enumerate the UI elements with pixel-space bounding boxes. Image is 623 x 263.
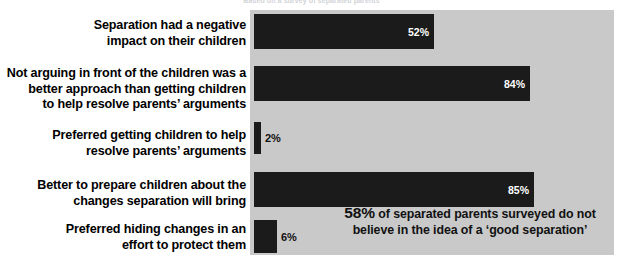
- bar-2: 2%: [254, 122, 261, 154]
- bar-4: 6%: [254, 220, 277, 253]
- category-label-4: Preferred hiding changes in an effort to…: [0, 222, 246, 253]
- category-label-0: Separation had a negative impact on thei…: [0, 18, 246, 49]
- bar-0: 52%: [254, 14, 434, 49]
- category-label-3-line-1: changes separation will bring: [0, 194, 246, 210]
- bar-value-3: 85%: [508, 184, 529, 196]
- callout-line-2: believe in the idea of a ‘good separatio…: [353, 223, 588, 237]
- bar-value-0: 52%: [408, 26, 429, 38]
- category-label-column: Separation had a negative impact on thei…: [0, 10, 246, 255]
- bar-3: 85%: [254, 172, 534, 207]
- bar-value-4: 6%: [281, 231, 297, 243]
- category-label-2-line-1: resolve parents’ arguments: [0, 144, 246, 160]
- category-label-1-line-2: to help resolve parents’ arguments: [0, 97, 246, 113]
- category-label-2-line-0: Preferred getting children to help: [0, 128, 246, 144]
- category-label-1-line-1: better approach than getting children: [0, 82, 246, 98]
- callout-stat-number: 58%: [344, 204, 375, 221]
- bar-1: 84%: [254, 66, 530, 101]
- category-label-2: Preferred getting children to help resol…: [0, 128, 246, 159]
- category-label-0-line-1: impact on their children: [0, 34, 246, 50]
- callout-statistic: 58% of separated parents surveyed do not…: [334, 205, 606, 238]
- bar-value-1: 84%: [504, 78, 525, 90]
- category-label-1-line-0: Not arguing in front of the children was…: [0, 66, 246, 82]
- category-label-3: Better to prepare children about the cha…: [0, 178, 246, 209]
- category-label-0-line-0: Separation had a negative: [0, 18, 246, 34]
- category-label-4-line-1: effort to protect them: [0, 238, 246, 254]
- category-label-1: Not arguing in front of the children was…: [0, 66, 246, 113]
- category-label-4-line-0: Preferred hiding changes in an: [0, 222, 246, 238]
- callout-line-1-rest: of separated parents surveyed do not: [375, 207, 596, 221]
- chart-figure: Based on a survey of separated parents S…: [0, 0, 623, 263]
- bar-value-2: 2%: [265, 132, 281, 144]
- top-caption: Based on a survey of separated parents: [0, 0, 623, 5]
- category-label-3-line-0: Better to prepare children about the: [0, 178, 246, 194]
